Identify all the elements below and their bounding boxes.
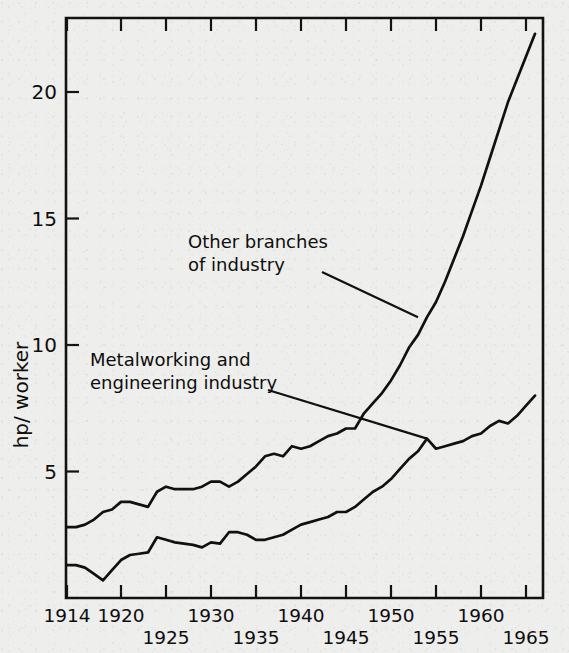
x-tick-label-1914: 1914 <box>43 605 90 626</box>
data-series-group <box>67 34 535 580</box>
annotation-leader-1 <box>268 390 427 439</box>
x-tick-label-1950: 1950 <box>367 605 414 626</box>
x-tick-label-1945: 1945 <box>322 627 369 648</box>
y-axis-title: hp/ worker <box>9 341 33 448</box>
x-tick-label-1935: 1935 <box>232 627 279 648</box>
series-line-metalworking <box>67 396 535 581</box>
annotation-label-0: Other branchesof industry <box>188 231 328 275</box>
x-tick-label-1955: 1955 <box>412 627 459 648</box>
x-tick-label-1930: 1930 <box>187 605 234 626</box>
annotation-label-1: Metalworking andengineering industry <box>90 349 278 393</box>
annotation-line2-0: of industry <box>188 254 285 275</box>
line-chart: 5101520 19141920192519301935194019451950… <box>0 0 569 653</box>
axis-frame-path <box>66 18 543 598</box>
y-axis-tick-labels: 5101520 <box>32 80 57 484</box>
y-tick-label-15: 15 <box>32 207 57 231</box>
x-tick-label-1925: 1925 <box>142 627 189 648</box>
y-axis-ticks <box>66 92 79 472</box>
x-tick-label-1920: 1920 <box>97 605 144 626</box>
x-tick-label-1940: 1940 <box>277 605 324 626</box>
x-tick-label-1960: 1960 <box>457 605 504 626</box>
plot-frame <box>66 18 543 598</box>
x-tick-label-1965: 1965 <box>502 627 549 648</box>
annotation-line2-1: engineering industry <box>90 372 278 393</box>
x-axis-ticks <box>67 18 526 598</box>
annotation-group: Other branchesof industryMetalworking an… <box>90 231 427 439</box>
y-tick-label-5: 5 <box>44 460 57 484</box>
y-tick-label-20: 20 <box>32 80 57 104</box>
annotation-line1-1: Metalworking and <box>90 349 251 370</box>
series-line-other-branches <box>67 34 535 527</box>
y-tick-label-10: 10 <box>32 333 57 357</box>
x-axis-tick-labels: 1914192019251930193519401945195019551960… <box>43 605 549 648</box>
annotation-line1-0: Other branches <box>188 231 328 252</box>
chart-root: 5101520 19141920192519301935194019451950… <box>0 0 569 653</box>
annotation-leader-0 <box>322 272 418 317</box>
